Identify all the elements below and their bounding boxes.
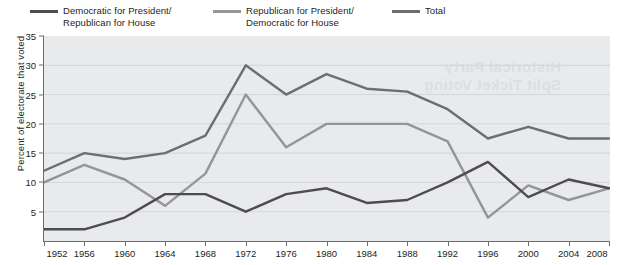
x-tick-label-1988: 1988 xyxy=(397,248,418,259)
series-line-dem_pres_rep_house xyxy=(44,162,609,229)
legend-item-total: Total xyxy=(392,5,445,17)
x-tick-mark-1956 xyxy=(84,242,85,246)
x-tick-label-1952: 1952 xyxy=(46,248,67,259)
legend-item-dem-pres-rep-house: Democratic for President/ Republican for… xyxy=(30,5,171,28)
series-line-rep_pres_dem_house xyxy=(44,95,609,218)
y-tick-label-35: 35 xyxy=(25,31,36,42)
x-tick-label-1964: 1964 xyxy=(154,248,175,259)
x-tick-label-1996: 1996 xyxy=(477,248,498,259)
chart-legend: Democratic for President/ Republican for… xyxy=(0,0,621,32)
y-tick-label-20: 20 xyxy=(25,118,36,129)
x-tick-label-1960: 1960 xyxy=(114,248,135,259)
x-tick-label-1976: 1976 xyxy=(276,248,297,259)
x-axis: 1952195619601964196819721976198019841988… xyxy=(44,241,610,265)
x-tick-mark-1996 xyxy=(488,242,489,246)
x-tick-label-2004: 2004 xyxy=(558,248,579,259)
x-tick-mark-1976 xyxy=(286,242,287,246)
x-tick-label-1972: 1972 xyxy=(235,248,256,259)
x-tick-label-1956: 1956 xyxy=(74,248,95,259)
y-tick-label-25: 25 xyxy=(25,89,36,100)
chart-lines-svg xyxy=(44,36,610,241)
x-tick-label-1980: 1980 xyxy=(316,248,337,259)
legend-swatch-dem-pres-rep-house xyxy=(30,10,58,13)
x-tick-mark-1960 xyxy=(125,242,126,246)
y-tick-label-10: 10 xyxy=(25,177,36,188)
x-tick-label-2000: 2000 xyxy=(518,248,539,259)
x-tick-label-1984: 1984 xyxy=(356,248,377,259)
x-tick-label-2008: 2008 xyxy=(586,248,607,259)
x-tick-mark-1992 xyxy=(448,242,449,246)
legend-swatch-total xyxy=(392,10,420,13)
y-tick-label-15: 15 xyxy=(25,148,36,159)
legend-item-rep-pres-dem-house: Republican for President/ Democratic for… xyxy=(213,5,354,28)
x-tick-mark-2008 xyxy=(609,242,610,246)
x-tick-mark-1980 xyxy=(327,242,328,246)
x-tick-mark-1988 xyxy=(407,242,408,246)
legend-label-rep-pres-dem-house: Republican for President/ Democratic for… xyxy=(246,5,354,28)
plot-area: Historical Party Split Ticket Voting xyxy=(44,36,610,241)
legend-label-total: Total xyxy=(425,5,445,17)
y-axis-title: Percent of electorate that voted xyxy=(15,14,26,194)
y-tick-label-30: 30 xyxy=(25,60,36,71)
x-tick-mark-1964 xyxy=(165,242,166,246)
series-line-total xyxy=(44,65,609,170)
x-tick-mark-1972 xyxy=(246,242,247,246)
x-tick-mark-2004 xyxy=(569,242,570,246)
x-tick-label-1992: 1992 xyxy=(437,248,458,259)
y-tick-label-5: 5 xyxy=(31,206,36,217)
x-tick-label-1968: 1968 xyxy=(195,248,216,259)
x-tick-mark-1968 xyxy=(205,242,206,246)
x-tick-mark-1952 xyxy=(44,242,45,246)
legend-swatch-rep-pres-dem-house xyxy=(213,10,241,13)
legend-label-dem-pres-rep-house: Democratic for President/ Republican for… xyxy=(63,5,171,28)
x-tick-mark-2000 xyxy=(528,242,529,246)
x-tick-mark-1984 xyxy=(367,242,368,246)
